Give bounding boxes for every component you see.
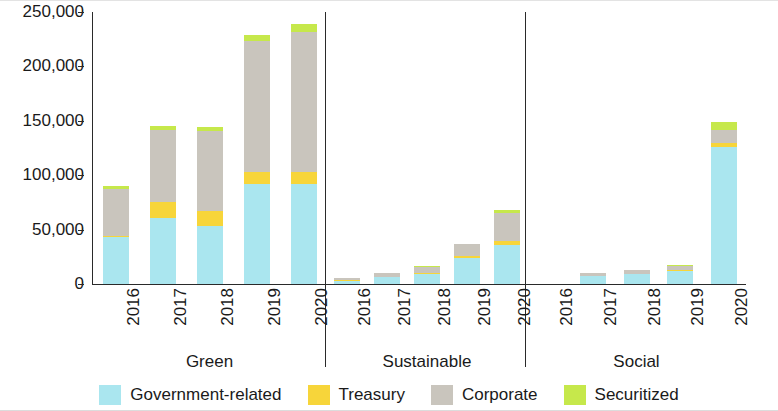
plot-area [92, 12, 746, 284]
y-tick-label: 100,000 [23, 165, 84, 185]
bar-green-2020 [291, 24, 317, 284]
bar-segment-government-related [667, 271, 693, 284]
x-tick-label-social-2017: 2017 [601, 288, 621, 326]
bar-segment-corporate [494, 213, 520, 240]
bar-segment-treasury [291, 172, 317, 184]
bar-segment-treasury [150, 202, 176, 217]
bar-segment-government-related [414, 274, 440, 284]
y-tick-mark [78, 12, 84, 13]
legend-item-government-related[interactable]: Government-related [99, 385, 281, 405]
x-tick-label-green-2018: 2018 [218, 288, 238, 326]
bar-segment-government-related [454, 258, 480, 284]
bar-segment-corporate [103, 189, 129, 236]
y-tick-mark [78, 121, 84, 122]
y-tick-mark [78, 284, 84, 285]
y-tick-label: 200,000 [23, 56, 84, 76]
group-label-green: Green [186, 352, 233, 372]
bar-sustainable-2017 [374, 273, 400, 284]
y-tick-label: 150,000 [23, 111, 84, 131]
bar-green-2016 [103, 186, 129, 284]
chart-legend: Government-relatedTreasuryCorporateSecur… [0, 378, 778, 411]
x-axis-group-labels: GreenSustainableSocial [92, 352, 746, 376]
bar-segment-government-related [291, 184, 317, 284]
x-tick-label-sustainable-2016: 2016 [355, 288, 375, 326]
bar-social-2017 [580, 273, 606, 284]
bar-segment-corporate [244, 41, 270, 172]
group-label-social: Social [613, 352, 659, 372]
bar-segment-securitized [291, 24, 317, 32]
legend-swatch-icon [431, 385, 453, 405]
group-label-sustainable: Sustainable [383, 352, 472, 372]
bar-segment-government-related [580, 276, 606, 284]
bar-sustainable-2020 [494, 210, 520, 284]
x-tick-label-green-2016: 2016 [124, 288, 144, 326]
y-tick-label: 50,000 [32, 220, 84, 240]
legend-label: Corporate [462, 385, 538, 405]
bar-segment-corporate [150, 130, 176, 203]
bar-social-2020 [711, 122, 737, 284]
bar-segment-corporate [197, 131, 223, 212]
legend-label: Government-related [130, 385, 281, 405]
bar-segment-government-related [494, 245, 520, 284]
page-top-hairline [0, 0, 778, 1]
bar-segment-government-related [103, 237, 129, 284]
x-axis-line [92, 284, 746, 285]
bar-sustainable-2019 [454, 244, 480, 284]
bar-segment-treasury [197, 211, 223, 226]
bar-sustainable-2018 [414, 266, 440, 284]
bar-segment-government-related [150, 218, 176, 284]
bar-segment-government-related [244, 184, 270, 284]
bar-sustainable-2016 [334, 278, 360, 284]
legend-label: Securitized [595, 385, 679, 405]
stacked-bar-chart: 050,000100,000150,000200,000250,000 2016… [0, 0, 778, 411]
bar-social-2018 [624, 270, 650, 284]
bar-segment-government-related [334, 281, 360, 284]
bar-segment-government-related [624, 274, 650, 284]
y-tick-mark [78, 175, 84, 176]
x-tick-label-sustainable-2020: 2020 [515, 288, 535, 326]
bar-social-2019 [667, 265, 693, 284]
y-tick-mark [78, 66, 84, 67]
legend-swatch-icon [564, 385, 586, 405]
legend-label: Treasury [339, 385, 405, 405]
bar-segment-corporate [711, 130, 737, 143]
legend-item-corporate[interactable]: Corporate [431, 385, 538, 405]
x-tick-label-green-2019: 2019 [265, 288, 285, 326]
bar-segment-government-related [197, 226, 223, 284]
x-tick-label-green-2020: 2020 [312, 288, 332, 326]
bar-segment-government-related [374, 277, 400, 284]
x-tick-label-sustainable-2018: 2018 [435, 288, 455, 326]
y-tick-label: 250,000 [23, 2, 84, 22]
x-tick-label-sustainable-2017: 2017 [395, 288, 415, 326]
y-tick-mark [78, 230, 84, 231]
x-tick-label-social-2018: 2018 [645, 288, 665, 326]
y-axis-labels: 050,000100,000150,000200,000250,000 [0, 12, 84, 284]
bar-segment-corporate [454, 244, 480, 256]
bar-segment-securitized [711, 122, 737, 130]
bar-green-2017 [150, 126, 176, 284]
bar-green-2019 [244, 35, 270, 284]
bar-segment-treasury [244, 172, 270, 184]
bar-segment-corporate [291, 32, 317, 172]
legend-item-treasury[interactable]: Treasury [308, 385, 405, 405]
x-tick-label-social-2019: 2019 [688, 288, 708, 326]
x-tick-label-green-2017: 2017 [171, 288, 191, 326]
bar-green-2018 [197, 127, 223, 284]
x-tick-label-social-2016: 2016 [557, 288, 577, 326]
legend-swatch-icon [99, 385, 121, 405]
legend-swatch-icon [308, 385, 330, 405]
legend-item-securitized[interactable]: Securitized [564, 385, 679, 405]
bar-segment-government-related [711, 147, 737, 284]
x-tick-label-sustainable-2019: 2019 [475, 288, 495, 326]
x-tick-label-social-2020: 2020 [732, 288, 752, 326]
